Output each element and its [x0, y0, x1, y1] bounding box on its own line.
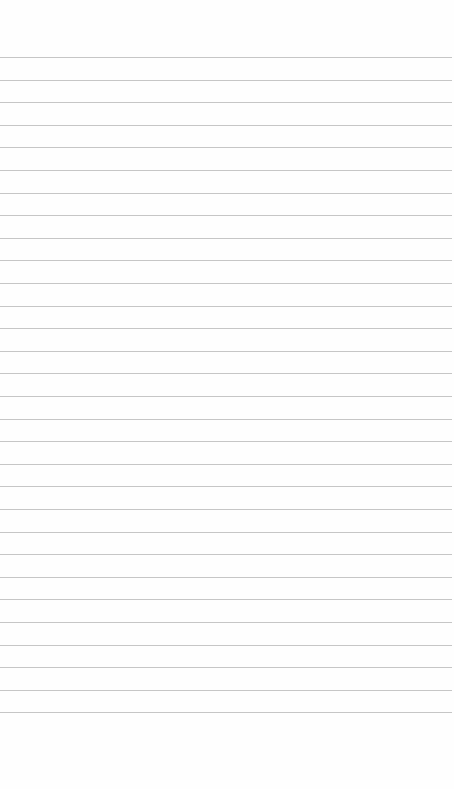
- ruled-line: [0, 622, 452, 623]
- ruled-line: [0, 260, 452, 261]
- ruled-line: [0, 464, 452, 465]
- lined-paper: [0, 0, 454, 789]
- ruled-line: [0, 667, 452, 668]
- ruled-line: [0, 577, 452, 578]
- ruled-line: [0, 193, 452, 194]
- ruled-line: [0, 712, 452, 713]
- ruled-line: [0, 396, 452, 397]
- ruled-line: [0, 599, 452, 600]
- ruled-line: [0, 125, 452, 126]
- ruled-line: [0, 283, 452, 284]
- ruled-line: [0, 328, 452, 329]
- ruled-line: [0, 690, 452, 691]
- ruled-line: [0, 238, 452, 239]
- ruled-line: [0, 509, 452, 510]
- ruled-line: [0, 441, 452, 442]
- ruled-line: [0, 486, 452, 487]
- ruled-line: [0, 215, 452, 216]
- ruled-line: [0, 351, 452, 352]
- ruled-line: [0, 554, 452, 555]
- ruled-line: [0, 80, 452, 81]
- ruled-line: [0, 419, 452, 420]
- ruled-line: [0, 57, 452, 58]
- ruled-line: [0, 170, 452, 171]
- ruled-line: [0, 532, 452, 533]
- ruled-line: [0, 306, 452, 307]
- ruled-line: [0, 645, 452, 646]
- ruled-line: [0, 373, 452, 374]
- ruled-line: [0, 147, 452, 148]
- ruled-line: [0, 102, 452, 103]
